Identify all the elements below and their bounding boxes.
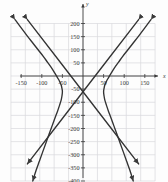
y-tick-label: 50 bbox=[73, 59, 79, 66]
y-tick-label: -400 bbox=[68, 177, 79, 182]
tick-labels-layer: -150-100-505010015020015010050-50-100-15… bbox=[16, 20, 150, 182]
x-tick-label: -100 bbox=[36, 79, 47, 86]
y-axis-label: y bbox=[85, 1, 89, 7]
y-tick-label: -350 bbox=[68, 164, 79, 171]
curve-hyperbola-right-branch bbox=[104, 20, 151, 181]
y-tick-label: -300 bbox=[68, 151, 79, 158]
y-tick-label: 100 bbox=[70, 46, 79, 53]
axes-layer bbox=[20, 4, 158, 178]
y-tick-label: -100 bbox=[68, 98, 79, 105]
x-tick-label: 100 bbox=[120, 79, 129, 86]
y-tick-label: -250 bbox=[68, 138, 79, 145]
y-tick-label: 150 bbox=[70, 33, 79, 40]
x-tick-label: 150 bbox=[140, 79, 149, 86]
x-axis-label: x bbox=[162, 73, 166, 79]
x-tick-label: -150 bbox=[16, 79, 27, 86]
x-tick-label: -50 bbox=[58, 79, 66, 86]
y-tick-label: -150 bbox=[68, 112, 79, 119]
y-tick-label: -50 bbox=[71, 85, 79, 92]
chart-container: -150-100-505010015020015010050-50-100-15… bbox=[0, 0, 168, 182]
y-tick-label: -200 bbox=[68, 125, 79, 132]
y-tick-label: 200 bbox=[70, 20, 79, 27]
x-tick-label: 50 bbox=[101, 79, 107, 86]
curve-hyperbola-left-branch bbox=[15, 20, 62, 181]
cartesian-plot: -150-100-505010015020015010050-50-100-15… bbox=[0, 0, 168, 182]
